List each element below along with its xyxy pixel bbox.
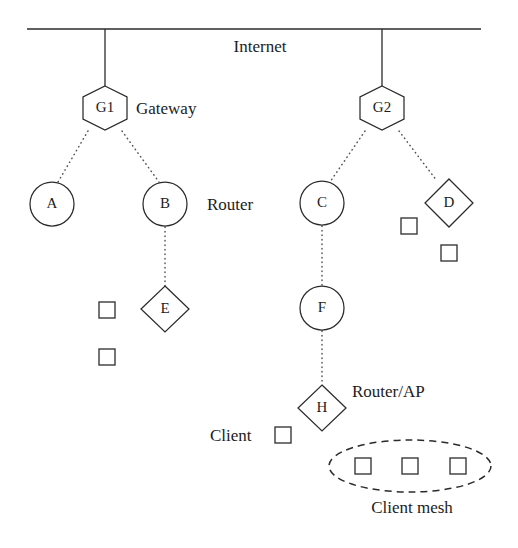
client-square-m2[interactable]: [402, 458, 418, 474]
client-square-c1[interactable]: [99, 302, 115, 318]
client-square-legend[interactable]: [275, 427, 291, 443]
client-square-c2[interactable]: [99, 349, 115, 365]
node-g2[interactable]: G2: [360, 86, 404, 130]
node-d[interactable]: D: [425, 179, 473, 227]
node-g1[interactable]: G1: [83, 86, 127, 130]
link-g1-to-a: [58, 131, 88, 182]
label-client: Client: [210, 426, 252, 445]
node-label-g1: G1: [96, 99, 114, 115]
label-gateway: Gateway: [136, 99, 197, 118]
node-label-b: B: [160, 195, 170, 211]
node-c[interactable]: C: [300, 181, 344, 225]
link-g2-to-d: [399, 131, 437, 181]
label-internet: Internet: [234, 37, 287, 56]
label-client-mesh: Client mesh: [371, 498, 453, 517]
node-label-h: H: [317, 399, 328, 415]
client-square-c4[interactable]: [441, 245, 457, 261]
client-square-m1[interactable]: [355, 458, 371, 474]
node-label-f: F: [318, 299, 326, 315]
label-router-ap: Router/AP: [352, 382, 425, 401]
client-square-c3[interactable]: [401, 218, 417, 234]
node-label-g2: G2: [373, 99, 391, 115]
network-topology-diagram: G1 G2 A B C D E F: [0, 0, 518, 548]
link-g2-to-c: [330, 131, 365, 182]
link-g1-to-b: [122, 131, 159, 182]
node-e[interactable]: E: [141, 286, 189, 332]
node-b[interactable]: B: [143, 182, 187, 226]
client-square-m3[interactable]: [450, 458, 466, 474]
topology-canvas: G1 G2 A B C D E F: [0, 0, 518, 548]
node-h[interactable]: H: [298, 385, 346, 431]
node-label-a: A: [47, 195, 58, 211]
node-label-c: C: [317, 194, 327, 210]
node-label-e: E: [160, 300, 169, 316]
node-f[interactable]: F: [300, 286, 344, 330]
node-a[interactable]: A: [30, 182, 74, 226]
node-label-d: D: [444, 194, 455, 210]
label-router: Router: [207, 195, 254, 214]
